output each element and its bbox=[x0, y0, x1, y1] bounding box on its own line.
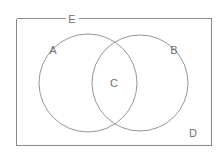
venn-diagram-canvas: E A B C D bbox=[0, 0, 223, 155]
set-a-label: A bbox=[49, 45, 57, 56]
intersection-label: C bbox=[110, 78, 118, 89]
universe-label-e: E bbox=[68, 14, 76, 25]
set-b-label: B bbox=[170, 45, 178, 56]
complement-region-label: D bbox=[189, 128, 197, 139]
